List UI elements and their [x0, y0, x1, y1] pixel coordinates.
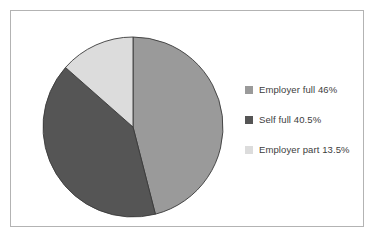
chart-canvas: Employer full 46% Self full 40.5% Employ… — [0, 0, 385, 249]
chart-legend: Employer full 46% Self full 40.5% Employ… — [245, 83, 365, 157]
legend-swatch-employer-part — [245, 146, 253, 154]
legend-item-self-full[interactable]: Self full 40.5% — [245, 113, 365, 127]
pie-slice-group — [43, 37, 223, 217]
pie-chart — [42, 36, 224, 218]
pie-chart-svg — [42, 36, 224, 218]
chart-frame: Employer full 46% Self full 40.5% Employ… — [10, 10, 364, 227]
legend-item-employer-part[interactable]: Employer part 13.5% — [245, 143, 365, 157]
legend-label-employer-full: Employer full 46% — [259, 84, 337, 96]
legend-label-self-full: Self full 40.5% — [259, 114, 321, 126]
legend-swatch-employer-full — [245, 86, 253, 94]
legend-swatch-self-full — [245, 116, 253, 124]
legend-item-employer-full[interactable]: Employer full 46% — [245, 83, 365, 97]
legend-label-employer-part: Employer part 13.5% — [259, 144, 350, 156]
